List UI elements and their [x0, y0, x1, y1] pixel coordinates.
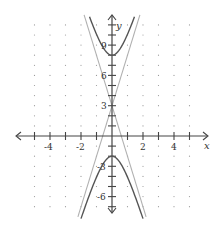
grid-dot	[158, 176, 159, 177]
grid-dot	[49, 186, 50, 187]
grid-dot	[189, 166, 190, 167]
grid-dot	[189, 55, 190, 56]
grid-dot	[49, 176, 50, 177]
grid-dot	[158, 34, 159, 35]
grid-dot	[173, 45, 174, 46]
grid-dot	[80, 115, 81, 116]
grid-dot	[142, 125, 143, 126]
grid-dot	[189, 156, 190, 157]
grid-dot	[127, 85, 128, 86]
grid-dot	[96, 24, 97, 25]
grid-dot	[65, 55, 66, 56]
grid-dot	[49, 75, 50, 76]
grid-dot	[158, 24, 159, 25]
grid-dot	[96, 65, 97, 66]
grid-dot	[96, 85, 97, 86]
grid-dot	[34, 95, 35, 96]
grid-dot	[65, 65, 66, 66]
grid-dot	[158, 45, 159, 46]
y-tick-label-neg6: -6	[97, 192, 106, 202]
grid-dot	[80, 166, 81, 167]
grid-dot	[127, 166, 128, 167]
grid-dot	[65, 95, 66, 96]
grid-dot	[173, 75, 174, 76]
grid-dot	[34, 166, 35, 167]
grid-dot	[34, 55, 35, 56]
grid-dot	[80, 75, 81, 76]
grid-dot	[96, 95, 97, 96]
grid-dot	[127, 115, 128, 116]
grid-dot	[189, 34, 190, 35]
grid-dot	[158, 115, 159, 116]
grid-dot	[80, 85, 81, 86]
grid-dot	[127, 125, 128, 126]
grid-dot	[80, 156, 81, 157]
grid-dot	[34, 75, 35, 76]
grid-dot	[49, 105, 50, 106]
x-tick-label-2: 2	[140, 142, 146, 152]
axes	[16, 15, 208, 213]
grid-dot	[189, 146, 190, 147]
grid-dot	[173, 196, 174, 197]
grid-dot	[49, 45, 50, 46]
grid-dot	[80, 24, 81, 25]
grid-dot	[189, 176, 190, 177]
grid-dot	[96, 206, 97, 207]
grid-dot	[65, 24, 66, 25]
grid-dot	[173, 24, 174, 25]
grid-dot	[142, 85, 143, 86]
grid-dot	[142, 115, 143, 116]
grid-dot	[49, 24, 50, 25]
grid-dot	[158, 65, 159, 66]
y-tick-label-3: 3	[101, 101, 107, 111]
grid-dot	[189, 75, 190, 76]
grid-dot	[80, 55, 81, 56]
grid-dot	[127, 196, 128, 197]
grid-dot	[80, 34, 81, 35]
grid-dot	[173, 166, 174, 167]
grid-dot	[142, 75, 143, 76]
grid-dot	[80, 125, 81, 126]
y-tick-label-6: 6	[101, 71, 107, 81]
grid-dot	[173, 34, 174, 35]
grid-dot	[49, 85, 50, 86]
grid-dot	[34, 34, 35, 35]
grid-dot	[34, 206, 35, 207]
y-tick-label-9: 9	[101, 41, 107, 51]
grid-dot	[142, 55, 143, 56]
grid-dot	[34, 115, 35, 116]
grid-dot	[127, 206, 128, 207]
grid-dot	[49, 65, 50, 66]
grid-dot	[49, 125, 50, 126]
grid-dot	[80, 196, 81, 197]
grid-dot	[96, 186, 97, 187]
grid-dot	[65, 176, 66, 177]
grid-dot	[142, 45, 143, 46]
grid-dot	[173, 105, 174, 106]
grid-dot	[96, 146, 97, 147]
grid-dot	[189, 196, 190, 197]
x-tick-label-neg4: -4	[44, 142, 53, 152]
grid-dot	[34, 105, 35, 106]
grid-dot	[96, 105, 97, 106]
grid-dot	[189, 24, 190, 25]
grid-dot	[173, 206, 174, 207]
grid-dot	[65, 115, 66, 116]
grid-dot	[49, 196, 50, 197]
grid-dot	[189, 85, 190, 86]
grid-dot	[142, 166, 143, 167]
grid-dot	[80, 45, 81, 46]
grid-dot	[127, 65, 128, 66]
grid-dot	[80, 176, 81, 177]
grid-dot	[127, 45, 128, 46]
grid-dot	[80, 65, 81, 66]
x-tick-label-4: 4	[171, 142, 177, 152]
grid-dot	[96, 125, 97, 126]
grid-dot	[34, 24, 35, 25]
grid-dot	[173, 176, 174, 177]
grid-dot	[142, 156, 143, 157]
grid-dot	[96, 75, 97, 76]
grid-dot	[189, 125, 190, 126]
hyperbola-graph: x y -4 -2 2 4 9 6 3 -3 -6	[0, 0, 220, 227]
grid-dot	[158, 55, 159, 56]
